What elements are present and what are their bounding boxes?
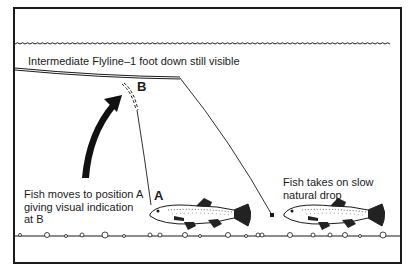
leader-to-fly [180, 78, 272, 215]
position-b-label: B [137, 81, 146, 94]
movement-arrow [82, 95, 122, 178]
fish-b [284, 198, 385, 230]
flyline-label: Intermediate Flyline–1 foot down still v… [28, 55, 240, 68]
right-caption-line: natural drop [283, 189, 373, 202]
left-caption: Fish moves to position A giving visual i… [24, 188, 143, 226]
left-caption-line: giving visual indication [24, 201, 143, 214]
left-caption-line: at B [24, 213, 143, 226]
position-a-label: A [154, 190, 163, 203]
diagram-illustration [0, 0, 412, 274]
leader-to-fish-a [122, 83, 151, 205]
lake-bed [15, 232, 402, 238]
right-caption: Fish takes on slow natural drop [283, 176, 373, 201]
fish-a [150, 198, 251, 230]
intermediate-flyline [15, 68, 180, 79]
right-caption-line: Fish takes on slow [283, 176, 373, 189]
water-surface [15, 43, 390, 44]
left-caption-line: Fish moves to position A [24, 188, 143, 201]
fly [270, 213, 274, 217]
